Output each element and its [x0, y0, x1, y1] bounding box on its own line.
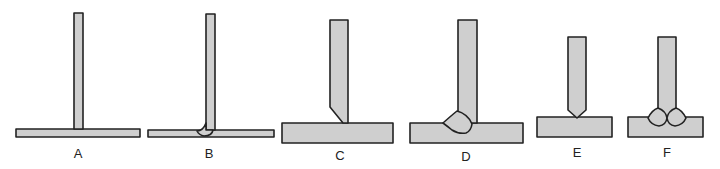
figure-c: C [282, 20, 393, 163]
figure-b: B [148, 14, 274, 161]
figure-e: E [537, 37, 612, 160]
figure-c-base-plate [282, 123, 393, 143]
figure-a-base-plate [16, 129, 140, 137]
figure-a: A [16, 13, 140, 161]
figure-c-label: C [335, 148, 344, 163]
figure-f: F [628, 37, 703, 160]
figure-e-base-plate [537, 117, 612, 137]
figure-e-label: E [573, 145, 582, 160]
figure-d-label: D [461, 149, 470, 164]
figure-a-label: A [74, 146, 83, 161]
figure-d-vertical-plate [458, 20, 477, 123]
figure-a-vertical-plate [74, 13, 83, 129]
figure-e-double-bevel-vertical-plate [568, 37, 586, 118]
figure-d: D [410, 20, 523, 164]
figure-b-label: B [205, 146, 214, 161]
figure-f-label: F [663, 145, 671, 160]
figure-f-vertical-plate [658, 37, 676, 117]
figure-c-beveled-vertical-plate [330, 20, 348, 123]
figure-b-vertical-plate [206, 14, 215, 130]
weld-joint-diagram: A B C D E F [0, 0, 720, 169]
